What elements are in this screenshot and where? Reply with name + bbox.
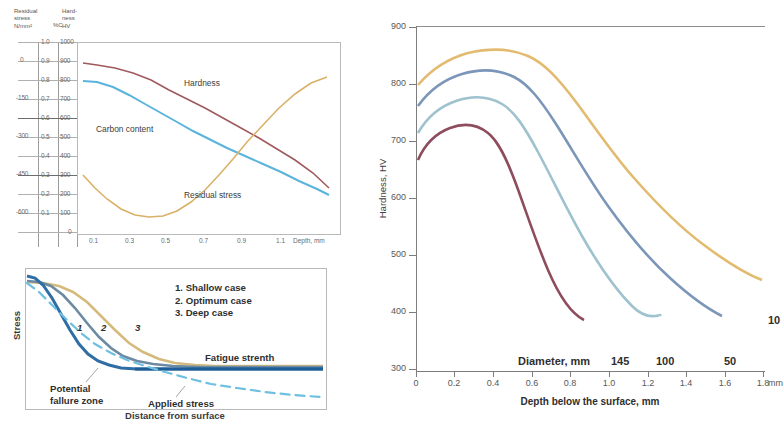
figC-xtick-12: 1.2 bbox=[634, 378, 662, 388]
figB-curve-applied-stress bbox=[27, 283, 321, 397]
figC-x-axis-label: Depth below the surface, mm bbox=[416, 396, 764, 407]
figB-legend: 1. Shallow case 2. Optimum case 3. Deep … bbox=[175, 282, 252, 320]
figA-h-tick-4: 600 bbox=[60, 114, 70, 121]
figA-c-tick-0: 1.0 bbox=[41, 38, 49, 45]
figC-xtick-0: 0 bbox=[402, 378, 430, 388]
figC-xtick-04: 0.4 bbox=[479, 378, 507, 388]
figB-legend-item-2: 2. Optimum case bbox=[175, 295, 252, 308]
figC-ytick-800: 800 bbox=[378, 78, 406, 88]
figC-x-unit: mm bbox=[768, 378, 784, 388]
figA-xtick-0: 0.1 bbox=[89, 237, 98, 244]
figB-curve-number-2: 2 bbox=[101, 322, 106, 333]
figA-c-tick-5: 0.5 bbox=[41, 133, 49, 140]
figA-h-tick-6: 400 bbox=[60, 152, 70, 159]
figA-col-divider-2 bbox=[58, 42, 59, 247]
figB-annotation-potential-line2: fallure zone bbox=[50, 395, 103, 406]
figA-xtick-3: 0.7 bbox=[199, 237, 208, 244]
figA-xtick-1: 0.3 bbox=[125, 237, 134, 244]
figC-y-axis-label: Hardness, HV bbox=[377, 139, 388, 239]
figA-rs-tick-0: 0 bbox=[20, 56, 23, 63]
figB-annotation-fatigue-strength: Fatigue strenth bbox=[205, 352, 274, 364]
figB-curve-number-1: 1 bbox=[77, 322, 82, 333]
figA-curves bbox=[77, 42, 339, 233]
figB-legend-item-1: 1. Shallow case bbox=[175, 282, 252, 295]
figC-curve-d10 bbox=[418, 50, 762, 280]
figA-c-tick-9: 0.1 bbox=[41, 209, 49, 216]
figC-curve-d50 bbox=[418, 70, 722, 316]
figA-xtick-5: 1.1 bbox=[276, 237, 285, 244]
figA-c-tick-1: 0.9 bbox=[41, 57, 49, 64]
figA-c-tick-6: 0.4 bbox=[41, 152, 49, 159]
figA-c-tick-8: 0.2 bbox=[41, 190, 49, 197]
figA-h-tick-3: 700 bbox=[60, 95, 70, 102]
figA-xtick-4: 0.9 bbox=[237, 237, 246, 244]
figA-c-tick-7: 0.3 bbox=[41, 171, 49, 178]
figC-series-caption: Diameter, mm bbox=[518, 355, 590, 367]
figC-curves bbox=[416, 26, 764, 370]
figB-legend-item-3: 3. Deep case bbox=[175, 307, 252, 320]
figA-h-tick-7: 300 bbox=[60, 171, 70, 178]
figA-c-tick-3: 0.7 bbox=[41, 95, 49, 102]
figA-h-tick-10: 0 bbox=[68, 228, 71, 235]
figC-ytick-400: 400 bbox=[378, 306, 406, 316]
figA-h-tick-2: 800 bbox=[60, 76, 70, 83]
figC-xtick-02: 0.2 bbox=[440, 378, 468, 388]
figure-fatigue-stress-distance: Stress Distance from surface 1. Shallow … bbox=[0, 258, 352, 434]
figA-c-tick-2: 0.8 bbox=[41, 76, 49, 83]
figC-ytick-500: 500 bbox=[378, 249, 406, 259]
figA-axis-columns: 0 -150 -300 -450 -600 1.0 0.9 0.8 0.7 0.… bbox=[18, 42, 78, 233]
figC-xtick-06: 0.6 bbox=[518, 378, 546, 388]
figC-series-label-145: 145 bbox=[611, 355, 629, 367]
figC-series-label-100: 100 bbox=[656, 355, 674, 367]
figure-hardness-vs-depth: 900 800 700 600 500 400 300 0 0.2 0.4 0.… bbox=[368, 18, 784, 428]
figA-col-divider-1 bbox=[38, 42, 39, 247]
figure-case-hardening-profile: ResidualstressN/mm² %C Hard-nessHV 0 -15… bbox=[0, 0, 352, 252]
figA-rs-tick-2: -300 bbox=[16, 132, 28, 139]
figA-h-tick-0: 1000 bbox=[60, 38, 74, 45]
figA-h-tick-9: 100 bbox=[60, 209, 70, 216]
figC-ytick-900: 900 bbox=[378, 21, 406, 31]
figA-label-carbon: Carbon content bbox=[96, 124, 153, 134]
figB-curve-number-3: 3 bbox=[135, 322, 140, 333]
figA-label-hardness: Hardness bbox=[184, 78, 220, 88]
figA-c-tick-4: 0.6 bbox=[41, 114, 49, 121]
figA-label-residual: Residual stress bbox=[184, 190, 241, 200]
figA-xlabel: Depth, mm bbox=[293, 237, 325, 244]
figA-h-tick-8: 200 bbox=[60, 190, 70, 197]
figA-rs-tick-3: -450 bbox=[16, 170, 28, 177]
figC-xtick-14: 1.4 bbox=[672, 378, 700, 388]
figA-header-hardness: Hard-nessHV bbox=[62, 8, 77, 30]
figB-y-axis-label: Stress bbox=[11, 296, 22, 356]
figB-annotation-potential-line1: Potential bbox=[50, 383, 91, 394]
figA-header-residual-stress: ResidualstressN/mm² bbox=[14, 8, 54, 30]
figC-xtick-08: 0.8 bbox=[556, 378, 584, 388]
figB-annotation-applied-stress: Applied stress bbox=[148, 398, 214, 410]
figC-xtick-16: 1.6 bbox=[711, 378, 739, 388]
figA-h-tick-5: 500 bbox=[60, 133, 70, 140]
figB-annotation-potential-failure-zone: Potential fallure zone bbox=[50, 383, 103, 406]
figC-series-label-10: 10 bbox=[768, 314, 780, 326]
figB-x-axis-label: Distance from surface bbox=[25, 410, 325, 421]
figA-curve-carbon bbox=[83, 81, 329, 195]
figC-ytick-300: 300 bbox=[378, 363, 406, 373]
figA-xtick-2: 0.5 bbox=[161, 237, 170, 244]
figA-rs-tick-4: -600 bbox=[16, 208, 28, 215]
figA-h-tick-1: 900 bbox=[60, 57, 70, 64]
figC-series-label-50: 50 bbox=[724, 355, 736, 367]
figA-rs-tick-1: -150 bbox=[16, 94, 28, 101]
figC-xtick-10: 1.0 bbox=[595, 378, 623, 388]
figC-curve-d145 bbox=[418, 125, 584, 320]
figC-curve-d100 bbox=[418, 97, 660, 316]
